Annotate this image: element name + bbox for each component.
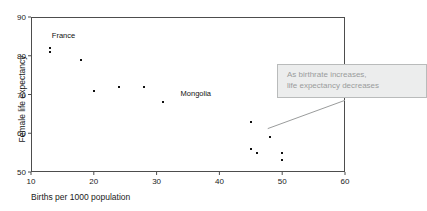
annotation-line-2: life expectancy decreases bbox=[287, 80, 426, 91]
data-point-label: France bbox=[52, 32, 75, 40]
top-edge-strip bbox=[0, 0, 415, 5]
data-point bbox=[80, 59, 82, 61]
data-point bbox=[281, 152, 283, 154]
data-point bbox=[256, 152, 258, 154]
annotation-callout: As birthrate increases, life expectancy … bbox=[277, 64, 427, 98]
data-point bbox=[49, 47, 51, 49]
data-point-label: Mongolia bbox=[181, 90, 211, 98]
data-point bbox=[281, 159, 283, 161]
x-tick-label: 60 bbox=[341, 177, 350, 186]
x-axis-title: Births per 1000 population bbox=[31, 192, 130, 202]
data-point bbox=[93, 90, 95, 92]
data-point bbox=[269, 136, 271, 138]
x-tick-label: 40 bbox=[215, 177, 224, 186]
data-point bbox=[49, 51, 51, 53]
data-point bbox=[143, 86, 145, 88]
x-tick-label: 10 bbox=[27, 177, 36, 186]
data-point bbox=[250, 121, 252, 123]
y-axis-title: Female life expectancy bbox=[17, 29, 27, 169]
data-point bbox=[162, 101, 164, 103]
x-tick-label: 50 bbox=[278, 177, 287, 186]
x-tick-label: 20 bbox=[89, 177, 98, 186]
data-point bbox=[250, 148, 252, 150]
data-point bbox=[118, 86, 120, 88]
x-axis-ticks bbox=[31, 172, 345, 175]
x-tick-label: 30 bbox=[152, 177, 161, 186]
y-tick-label: 90 bbox=[7, 13, 26, 22]
annotation-line-1: As birthrate increases, bbox=[287, 69, 426, 80]
